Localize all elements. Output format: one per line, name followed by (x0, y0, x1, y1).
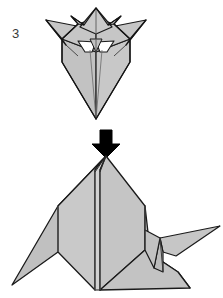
bottom-tail-upper-blade (160, 226, 220, 256)
figure-bottom-after (12, 156, 220, 290)
origami-illustration: 3 (0, 0, 223, 298)
origami-diagram: 3 (0, 0, 223, 298)
fold-direction-arrow (92, 130, 120, 158)
figure-top-before (46, 8, 146, 119)
step-number-label: 3 (12, 26, 19, 41)
arrow-down-icon (92, 130, 120, 158)
